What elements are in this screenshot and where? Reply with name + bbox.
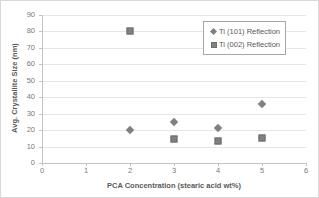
data-point-series-0 [258,100,266,108]
data-point-series-0 [126,126,134,134]
legend-item-0[interactable]: Ti (101) Reflection [208,25,280,38]
gridline-horizontal [42,97,306,98]
square-marker-icon [208,42,219,48]
diamond-marker-icon [208,29,219,34]
gridline-horizontal [42,130,306,131]
data-point-series-0 [170,118,178,126]
gridline-horizontal [42,15,306,16]
x-tick-label: 1 [84,167,88,175]
legend-label: Ti (002) Reflection [219,41,280,49]
y-tick-label: 60 [27,60,35,68]
data-point-series-1 [259,134,266,141]
legend-swatch-shape [210,28,217,35]
y-axis-title: Avg. Crystallite Size (nm) [10,43,19,133]
y-tick-label: 90 [27,11,35,19]
x-tick-label: 4 [216,167,220,175]
y-tick-label: 50 [27,77,35,85]
y-tick-label: 70 [27,44,35,52]
x-axis-tick-labels: 0123456 [42,167,306,179]
y-axis-title-wrapper: Avg. Crystallite Size (nm) [8,18,20,158]
y-tick-label: 0 [31,159,35,167]
y-tick-label: 40 [27,93,35,101]
legend-item-1[interactable]: Ti (002) Reflection [208,38,280,51]
data-point-series-1 [127,28,134,35]
data-point-series-1 [215,137,222,144]
legend-label: Ti (101) Reflection [219,28,280,36]
legend-swatch-shape [211,42,217,48]
y-tick-label: 20 [27,126,35,134]
gridline-horizontal [42,64,306,65]
x-tick-label: 2 [128,167,132,175]
x-tick-label: 3 [172,167,176,175]
scatter-chart: 0102030405060708090 0123456 PCA Concentr… [0,0,319,198]
data-point-series-1 [171,135,178,142]
x-tick-label: 0 [40,167,44,175]
y-tick-label: 30 [27,110,35,118]
legend: Ti (101) ReflectionTi (002) Reflection [203,21,286,55]
x-axis-line [42,163,306,164]
x-tick-label: 5 [260,167,264,175]
y-tick-label: 80 [27,27,35,35]
gridline-horizontal [42,81,306,82]
y-tick-label: 10 [27,143,35,151]
y-axis-line [42,15,43,164]
gridline-horizontal [42,114,306,115]
x-axis-title: PCA Concentration (stearic acid wt%) [42,181,306,190]
x-tick-label: 6 [304,167,308,175]
gridline-horizontal [42,147,306,148]
